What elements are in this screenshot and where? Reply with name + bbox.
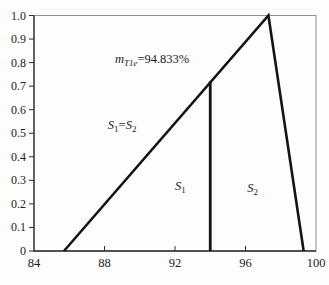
s1-equals-s2-label: S1=S2 (108, 118, 137, 134)
x-tick-label: 96 (239, 256, 252, 270)
y-tick-label: 0.2 (11, 197, 26, 211)
y-tick-label: 0 (20, 244, 26, 258)
y-tick-label: 0.8 (11, 56, 26, 70)
triangle-outline (64, 16, 304, 252)
chart-svg: 00.10.20.30.40.50.60.70.80.91.0848892961… (0, 0, 329, 285)
x-tick-label: 88 (98, 256, 111, 270)
x-tick-label: 92 (169, 256, 182, 270)
y-tick-label: 0.9 (11, 32, 26, 46)
y-tick-label: 1.0 (11, 9, 26, 23)
match-value-annotation: mT1e=94.833% (115, 52, 189, 68)
y-tick-label: 0.5 (11, 126, 26, 140)
y-tick-label: 0.7 (11, 79, 26, 93)
figure-canvas: 00.10.20.30.40.50.60.70.80.91.0848892961… (0, 0, 329, 285)
y-tick-label: 0.6 (11, 103, 26, 117)
s1-region-label: S1 (175, 179, 186, 195)
y-tick-label: 0.3 (11, 173, 26, 187)
x-tick-label: 84 (28, 256, 41, 270)
y-tick-label: 0.4 (11, 150, 26, 164)
s2-region-label: S2 (247, 181, 258, 197)
x-tick-label: 100 (307, 256, 326, 270)
y-tick-label: 0.1 (11, 220, 26, 234)
